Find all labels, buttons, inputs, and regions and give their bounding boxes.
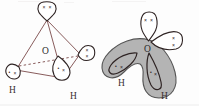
lobe-right-mark-2: × bbox=[172, 42, 175, 48]
lobe-left-mark-1: • bbox=[115, 63, 117, 69]
lobe-lower-right-bonding: • × bbox=[53, 56, 70, 80]
hydrogen-label-left: H bbox=[9, 85, 16, 95]
lobe-top-mark-2: × bbox=[150, 17, 153, 23]
lobe-top-lone-pair: × × bbox=[141, 12, 157, 41]
oxygen-label: O bbox=[42, 46, 49, 56]
hydrogen-label-left: H bbox=[118, 78, 125, 88]
lobe-lower-right-mark-1: • bbox=[58, 65, 60, 71]
lobe-lower-left-bonding: • × bbox=[6, 64, 20, 79]
lobe-top-mark-1: × bbox=[144, 17, 147, 23]
hydrogen-label-right: H bbox=[70, 91, 77, 101]
lobe-left-mark-2: × bbox=[120, 64, 123, 70]
lobe-right-bond-mark-2: × bbox=[154, 71, 157, 77]
edge-top-to-left bbox=[16, 20, 47, 70]
bent-molecular-shape-diagram: × × × × • × • × O H H bbox=[99, 0, 199, 106]
lobe-right-lone-pair: × × bbox=[78, 45, 95, 60]
lobe-top-mark-1: × bbox=[43, 4, 46, 10]
lobe-right-mark-2: × bbox=[86, 53, 89, 59]
lobe-right-mark-1: × bbox=[172, 35, 175, 41]
oxygen-label: O bbox=[144, 44, 151, 54]
hydrogen-label-right: H bbox=[161, 91, 168, 101]
figure-root: × × × × • × • × O H H bbox=[0, 0, 199, 106]
edge-left-to-right bbox=[19, 56, 78, 66]
lobe-right-bond-mark-1: • bbox=[150, 69, 152, 75]
tetrahedral-orbital-diagram: × × × × • × • × O H H bbox=[0, 0, 99, 106]
lobe-lower-left-mark-1: • bbox=[9, 69, 11, 75]
lobe-lower-left-mark-2: × bbox=[14, 70, 17, 76]
lobe-top-mark-2: × bbox=[49, 4, 52, 10]
lobe-top-lone-pair: × × bbox=[38, 2, 56, 21]
lobe-lower-right-mark-2: × bbox=[62, 67, 65, 73]
